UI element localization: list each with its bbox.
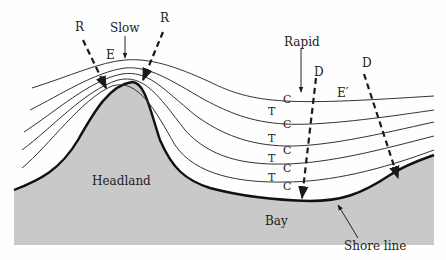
ray-label-d1: D bbox=[314, 66, 324, 78]
trough-label: T bbox=[268, 133, 275, 144]
land-area bbox=[14, 82, 434, 245]
crest-label: C bbox=[283, 163, 291, 174]
trough-label: T bbox=[268, 106, 275, 117]
rapid-label: Rapid bbox=[284, 36, 320, 48]
diagram-graphic bbox=[0, 0, 446, 260]
headland-label: Headland bbox=[92, 175, 151, 187]
bay-label: Bay bbox=[265, 215, 288, 227]
energy-concentrated-label: E bbox=[106, 49, 115, 61]
shore-line-label: Shore line bbox=[344, 240, 406, 252]
ray-label-d2: D bbox=[362, 57, 372, 69]
slow-label: Slow bbox=[110, 22, 140, 34]
wave-refraction-diagram: R R Slow E Rapid D D E′ C T C T C T C T … bbox=[0, 0, 446, 260]
trough-label: T bbox=[268, 172, 275, 183]
crest-label: C bbox=[283, 94, 291, 105]
crest-label: C bbox=[283, 181, 291, 192]
ray-label-r-right: R bbox=[160, 12, 169, 24]
crest-label: C bbox=[283, 119, 291, 130]
energy-dispersed-label: E′ bbox=[337, 87, 348, 99]
crest-label: C bbox=[283, 145, 291, 156]
trough-label: T bbox=[268, 153, 275, 164]
ray-label-r-left: R bbox=[75, 21, 84, 33]
